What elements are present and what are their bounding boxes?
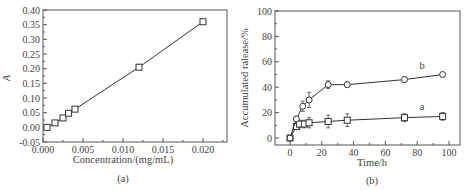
- data-point: [44, 124, 50, 130]
- y-tick-label: 0.20: [23, 63, 41, 74]
- data-point: [136, 64, 142, 70]
- y-tick-label: 0.40: [23, 5, 41, 16]
- chart-b-x-label: Time/h: [357, 157, 388, 168]
- chart-a-x-label: Concentration/(mg/mL): [73, 154, 174, 166]
- data-point: [300, 103, 306, 109]
- y-tick-label: 0.00: [23, 122, 41, 133]
- data-point: [66, 110, 72, 116]
- series-line: [290, 116, 443, 138]
- x-tick-label: 80: [412, 147, 422, 158]
- chart-b-y-label: Accumulated ralease/%: [239, 28, 250, 128]
- data-point: [287, 135, 293, 141]
- chart-b-x-ticks: 020406080100: [288, 141, 457, 158]
- data-point: [306, 120, 312, 126]
- data-point: [200, 19, 206, 25]
- series-b-annotation: b: [419, 60, 424, 71]
- y-tick-label: 0.30: [23, 34, 41, 45]
- chart-a: -0.050.000.050.100.150.200.250.300.350.4…: [1, 5, 227, 186]
- chart-b: 020406080100 020406080100 Accumulated ra…: [239, 6, 460, 188]
- y-tick-label: 0.25: [23, 49, 41, 60]
- y-tick-label: 20: [262, 107, 272, 118]
- y-tick-label: 40: [262, 82, 272, 93]
- data-point: [52, 120, 58, 126]
- x-tick-label: 0: [288, 147, 293, 158]
- x-tick-label: 20: [317, 147, 327, 158]
- data-point: [325, 82, 331, 88]
- data-point: [293, 116, 299, 122]
- series-a: [287, 113, 446, 141]
- chart-a-panel-label: (a): [117, 173, 129, 185]
- y-tick-label: 80: [262, 31, 272, 42]
- data-point: [440, 72, 446, 78]
- figure: -0.050.000.050.100.150.200.250.300.350.4…: [0, 0, 464, 191]
- data-point: [401, 77, 407, 83]
- y-tick-label: 0: [267, 133, 272, 144]
- y-tick-label: 60: [262, 56, 272, 67]
- x-tick-label: 100: [442, 147, 457, 158]
- chart-a-plot-frame: [43, 10, 227, 142]
- data-point: [72, 106, 78, 112]
- chart-b-y-ticks: 020406080100: [257, 6, 279, 144]
- data-point: [440, 113, 446, 119]
- y-tick-label: 100: [257, 6, 272, 17]
- data-point: [306, 97, 312, 103]
- data-point: [325, 118, 331, 124]
- data-point: [401, 115, 407, 121]
- data-point: [344, 82, 350, 88]
- y-tick-label: 0.35: [23, 19, 41, 30]
- y-tick-label: 0.15: [23, 78, 41, 89]
- x-tick-label: 0.000: [32, 144, 55, 155]
- y-tick-label: 0.05: [23, 107, 41, 118]
- y-tick-label: 0.10: [23, 93, 41, 104]
- chart-a-y-label: A: [1, 74, 12, 82]
- series-a-annotation: a: [420, 101, 425, 112]
- chart-a-data-points: [44, 19, 206, 131]
- chart-a-x-ticks: 0.0000.0050.0100.0150.020: [32, 138, 223, 155]
- chart-b-panel-label: (b): [366, 175, 379, 187]
- data-point: [344, 117, 350, 123]
- x-tick-label: 0.020: [192, 144, 215, 155]
